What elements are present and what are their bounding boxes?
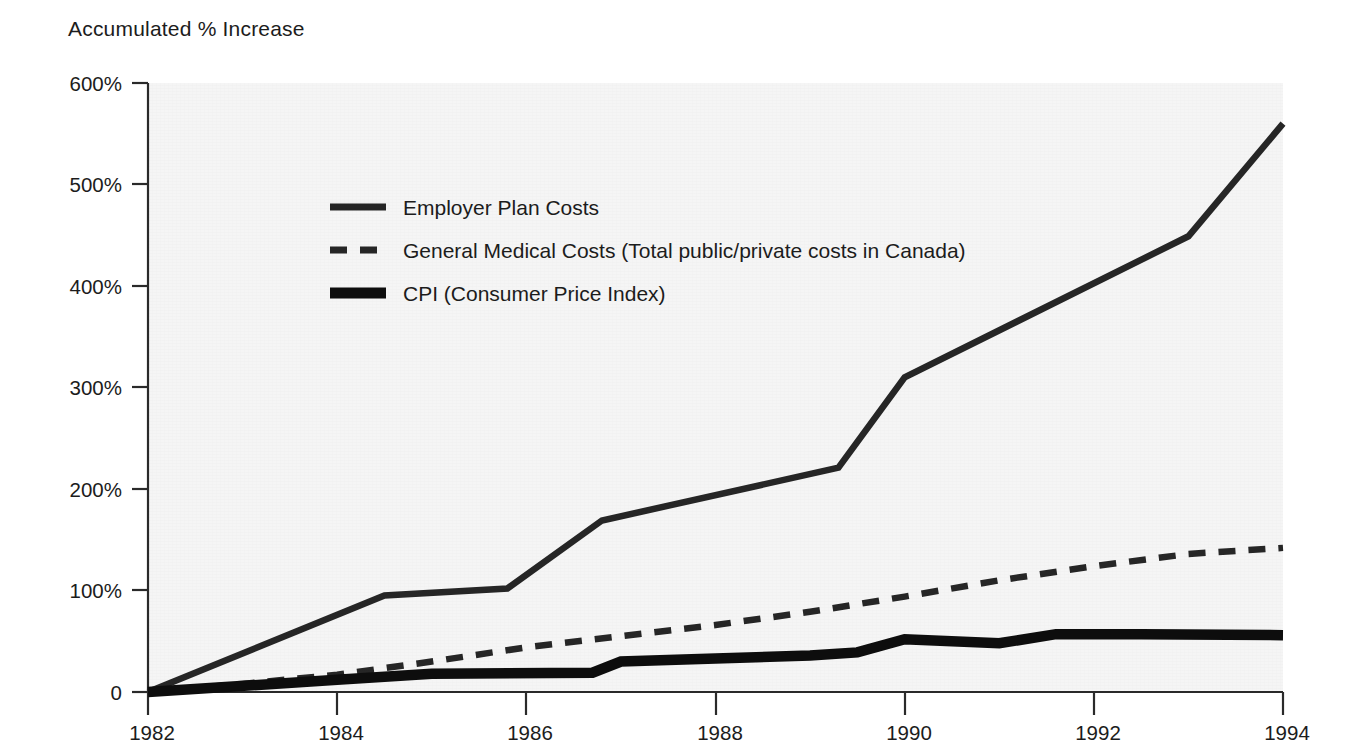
- chart-container: Accumulated % Increase 600% 500% 400% 30…: [0, 0, 1356, 743]
- plot-background: [148, 83, 1283, 692]
- x-tick-label-1990: 1990: [886, 721, 932, 743]
- y-tick-label-200: 200%: [70, 478, 122, 501]
- line-chart-plot: 600% 500% 400% 300% 200% 100% 0 1982 198…: [0, 0, 1356, 743]
- y-tick-label-300: 300%: [70, 376, 122, 399]
- y-tick-label-100: 100%: [70, 579, 122, 602]
- y-tick-label-500: 500%: [70, 173, 122, 196]
- legend-label-cpi: CPI (Consumer Price Index): [403, 282, 666, 305]
- x-tick-label-1986: 1986: [507, 721, 553, 743]
- x-tick-label-1992: 1992: [1075, 721, 1121, 743]
- x-tick-label-1982: 1982: [129, 721, 175, 743]
- x-tick-label-1988: 1988: [697, 721, 743, 743]
- y-tick-label-0: 0: [111, 681, 122, 704]
- x-tick-label-1994: 1994: [1264, 721, 1310, 743]
- legend-label-general-medical-costs: General Medical Costs (Total public/priv…: [403, 239, 966, 262]
- y-tick-label-400: 400%: [70, 275, 122, 298]
- legend-label-employer-plan-costs: Employer Plan Costs: [403, 196, 599, 219]
- x-tick-label-1984: 1984: [318, 721, 364, 743]
- y-tick-label-600: 600%: [70, 72, 122, 95]
- x-axis-group: 1982 1984 1986 1988 1990 1992 1994: [129, 692, 1310, 743]
- y-axis-group: 600% 500% 400% 300% 200% 100% 0: [70, 72, 148, 704]
